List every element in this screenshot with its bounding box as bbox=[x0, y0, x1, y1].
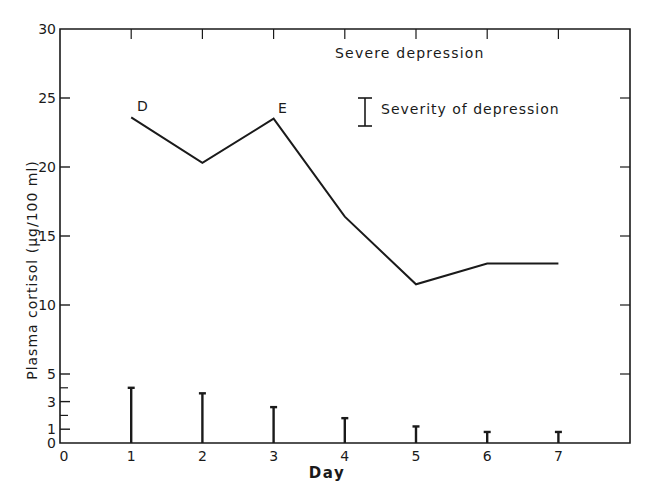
cortisol-polyline bbox=[131, 117, 558, 284]
y-tick-label: 3 bbox=[47, 394, 56, 410]
marker-d-label: D bbox=[137, 98, 148, 114]
x-tick-label: 6 bbox=[483, 448, 492, 464]
y-tick-label: 25 bbox=[38, 90, 56, 106]
x-tick-label: 4 bbox=[340, 448, 349, 464]
x-tick-label: 3 bbox=[269, 448, 278, 464]
cortisol-line bbox=[131, 117, 558, 284]
y-tick-label: 20 bbox=[38, 159, 56, 175]
axes-border bbox=[60, 29, 630, 443]
chart-title: Severe depression bbox=[335, 45, 485, 61]
plot-frame bbox=[60, 29, 630, 443]
x-tick-label: 5 bbox=[412, 448, 421, 464]
y-tick-label: 10 bbox=[38, 297, 56, 313]
y-tick-label: 30 bbox=[38, 21, 56, 37]
x-axis-label: Day bbox=[309, 464, 345, 482]
y-tick-label: 1 bbox=[47, 421, 56, 437]
chart: 01351015202530 01234567 Severe depressio… bbox=[0, 0, 647, 499]
y-tick-label: 15 bbox=[38, 228, 56, 244]
y-axis: 01351015202530 bbox=[38, 21, 630, 451]
x-tick-label: 7 bbox=[554, 448, 563, 464]
x-tick-label: 1 bbox=[127, 448, 136, 464]
x-axis: 01234567 bbox=[60, 29, 563, 464]
marker-e-label: E bbox=[278, 100, 287, 116]
legend-label-severity: Severity of depression bbox=[381, 101, 560, 117]
y-axis-label: Plasma cortisol (μg/100 ml) bbox=[24, 160, 40, 380]
severity-legend-icon bbox=[358, 98, 372, 126]
y-tick-label: 5 bbox=[47, 366, 56, 382]
severity-bars bbox=[128, 388, 562, 443]
x-tick-label: 2 bbox=[198, 448, 207, 464]
x-tick-label: 0 bbox=[60, 448, 69, 464]
legend: Severity of depression bbox=[358, 98, 560, 126]
y-tick-label: 0 bbox=[47, 435, 56, 451]
